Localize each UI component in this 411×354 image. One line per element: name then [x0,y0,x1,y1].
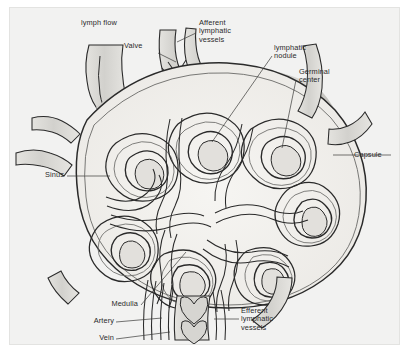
leader-vein [116,332,170,339]
illustration-plate: lymph flow Valve Afferent lymphatic vess… [9,7,400,345]
node-outline [76,63,366,308]
label-sinus: Sinus [32,171,64,179]
vessel-stub-lower-left [48,271,79,304]
label-lymph-flow: lymph flow [81,19,117,27]
germinal-center [180,272,205,299]
label-afferent-lymphatic-vessels: Afferent lymphatic vessels [199,19,231,44]
label-efferent-lymphatic-vessels: Efferent lymphatic vessels [241,307,273,332]
label-lymphatic-nodule: lymphatic nodule [274,44,306,61]
node-capsule-group [76,63,366,308]
lymph-node-diagram [10,8,399,344]
label-valve: Valve [124,42,142,50]
lymph-node-figure: lymph flow Valve Afferent lymphatic vess… [0,0,411,354]
label-artery: Artery [70,317,114,325]
label-germinal-center: Germinal center [299,68,330,85]
label-capsule: Capsule [354,151,382,159]
label-vein: Vein [74,334,114,342]
leader-artery [116,318,162,322]
label-medulla: Medulla [88,300,138,308]
vessel-stub-upper-left [32,117,80,143]
